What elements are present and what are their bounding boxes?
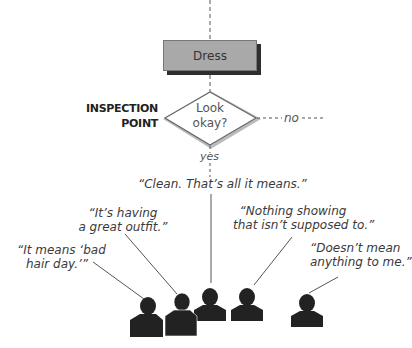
quote-nothing-showing: “Nothing showing that isn’t supposed to.… — [233, 204, 353, 232]
inspection-label-line2: POINT — [34, 116, 158, 131]
decision-question-line2: okay? — [180, 116, 240, 131]
pointer-bad-hair-day — [93, 262, 144, 299]
quote-line: hair day.’” — [17, 257, 97, 271]
person-icon-2 — [165, 293, 197, 336]
process-box-label: Dress — [193, 49, 227, 63]
quote-doesnt-mean: “Doesn’t mean anything to me.” — [310, 241, 398, 269]
inspection-label-line1: INSPECTION — [34, 101, 158, 116]
decision-question-line1: Look — [180, 101, 240, 116]
process-box-dress: Dress — [163, 40, 257, 71]
quote-line: that isn’t supposed to.” — [233, 218, 353, 232]
pointer-doesnt-mean — [309, 277, 338, 293]
quote-line: “Clean. That’s all it means.” — [138, 177, 284, 191]
pointer-nothing-showing — [254, 237, 292, 285]
quote-clean: “Clean. That’s all it means.” — [138, 177, 284, 191]
yes-branch-label: yes — [200, 150, 219, 163]
quote-line: “Doesn’t mean — [310, 241, 398, 255]
quote-great-outfit: “It’s having a great outfit.” — [78, 206, 168, 234]
person-icon-4 — [231, 288, 263, 321]
pointer-great-outfit — [125, 234, 177, 294]
inspection-point-label: INSPECTION POINT — [34, 101, 158, 131]
person-icon-3 — [194, 288, 226, 321]
quote-line: “It’s having — [78, 206, 168, 220]
quote-line: “Nothing showing — [233, 204, 353, 218]
no-branch-label: no — [284, 111, 299, 125]
quote-bad-hair-day: “It means ‘bad hair day.’” — [17, 243, 97, 271]
person-icon-5 — [291, 294, 323, 327]
quote-line: “It means ‘bad — [17, 243, 97, 257]
quote-line: a great outfit.” — [78, 220, 168, 234]
quote-line: anything to me.” — [310, 255, 398, 269]
decision-question: Look okay? — [180, 101, 240, 131]
person-icon-1 — [130, 297, 163, 337]
